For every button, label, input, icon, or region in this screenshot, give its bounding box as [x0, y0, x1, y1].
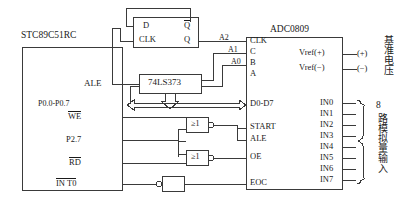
adc-pin-in7: IN7 — [320, 175, 333, 184]
nor-gate-2-bubble — [208, 155, 213, 160]
mcu-pin-int0-text: IN T0 — [56, 179, 76, 188]
adc-title: ADC0809 — [270, 25, 309, 35]
mcu-pin-rd: RD — [69, 158, 81, 167]
address-label-a1: A1 — [228, 46, 238, 54]
adc-pin-start: START — [250, 122, 276, 131]
mcu-pin-ale: ALE — [84, 79, 102, 88]
flipflop-pin-q: Q — [184, 35, 190, 44]
inverter-bubble — [156, 181, 161, 186]
adc-pin-in1: IN1 — [320, 109, 333, 118]
adc-pin-in6: IN6 — [320, 164, 333, 173]
mcu-pin-rd-text: RD — [69, 158, 81, 167]
adc-pin-vref-minus: Vref(−) — [299, 63, 325, 72]
latch-label: 74LS373 — [148, 78, 181, 87]
data-bus-arrow — [127, 100, 246, 110]
address-label-a2: A2 — [219, 34, 229, 42]
ale-riser-wire — [112, 28, 139, 84]
flipflop-clk-wire — [112, 28, 133, 41]
mcu-pin-p27: P2.7 — [66, 135, 81, 144]
adc-pin-in0: IN0 — [320, 98, 333, 107]
adc-pin-in3: IN3 — [320, 131, 333, 140]
nor-gate-2-label: ≥1 — [191, 153, 199, 161]
adc-pin-a: A — [250, 69, 256, 78]
analog-input-brace — [357, 100, 364, 184]
flipflop-pin-qbar: Q — [184, 21, 190, 30]
mcu-pin-p0: P0.0-P0.7 — [38, 100, 70, 108]
adc-pin-in4: IN4 — [320, 142, 333, 151]
nor-gate-1-label: ≥1 — [191, 120, 199, 128]
vref-minus-terminal: (−) — [357, 64, 367, 73]
adc-pin-c: C — [250, 47, 256, 56]
flipflop-pin-d: D — [143, 21, 149, 30]
mcu-title: STC89C51RC — [21, 31, 76, 41]
vref-plus-terminal: (+) — [357, 49, 367, 58]
flipflop-pin-clk: CLK — [139, 35, 156, 44]
adc-pin-oe: OE — [250, 152, 261, 161]
adc-pin-b: B — [250, 58, 256, 67]
mcu-pin-we-text: WE — [68, 112, 81, 121]
adc-pin-ale: ALE — [250, 134, 267, 143]
nor1-second-input-wire — [178, 129, 186, 141]
adc-pin-d0d7: D0-D7 — [250, 99, 274, 108]
address-label-a0: A0 — [231, 58, 241, 66]
mcu-pin-int0: IN T0 — [56, 179, 76, 188]
analog-input-count: 8 — [376, 100, 381, 110]
flipflop-pin-qbar-text: Q — [184, 21, 190, 30]
analog-input-annotation-cn: 路模拟量输入 — [376, 113, 387, 173]
adc-pin-vref-plus: Vref(+) — [299, 48, 325, 57]
nor1-output-wire — [214, 125, 246, 140]
mcu-pin-we: WE — [68, 112, 81, 121]
nor-gate-1-bubble — [208, 122, 213, 127]
adc-pin-in2: IN2 — [320, 120, 333, 129]
inverter-box — [163, 177, 185, 192]
schematic-diagram: STC89C51RC ALE P0.0-P0.7 WE P2.7 RD IN T… — [0, 0, 405, 210]
a0-wire — [201, 65, 246, 86]
adc-pin-clk: CLK — [250, 36, 267, 45]
adc-pin-in5: IN5 — [320, 153, 333, 162]
adc-pin-eoc: EOC — [250, 178, 267, 187]
vref-annotation-cn: 基准电压 — [382, 35, 393, 75]
